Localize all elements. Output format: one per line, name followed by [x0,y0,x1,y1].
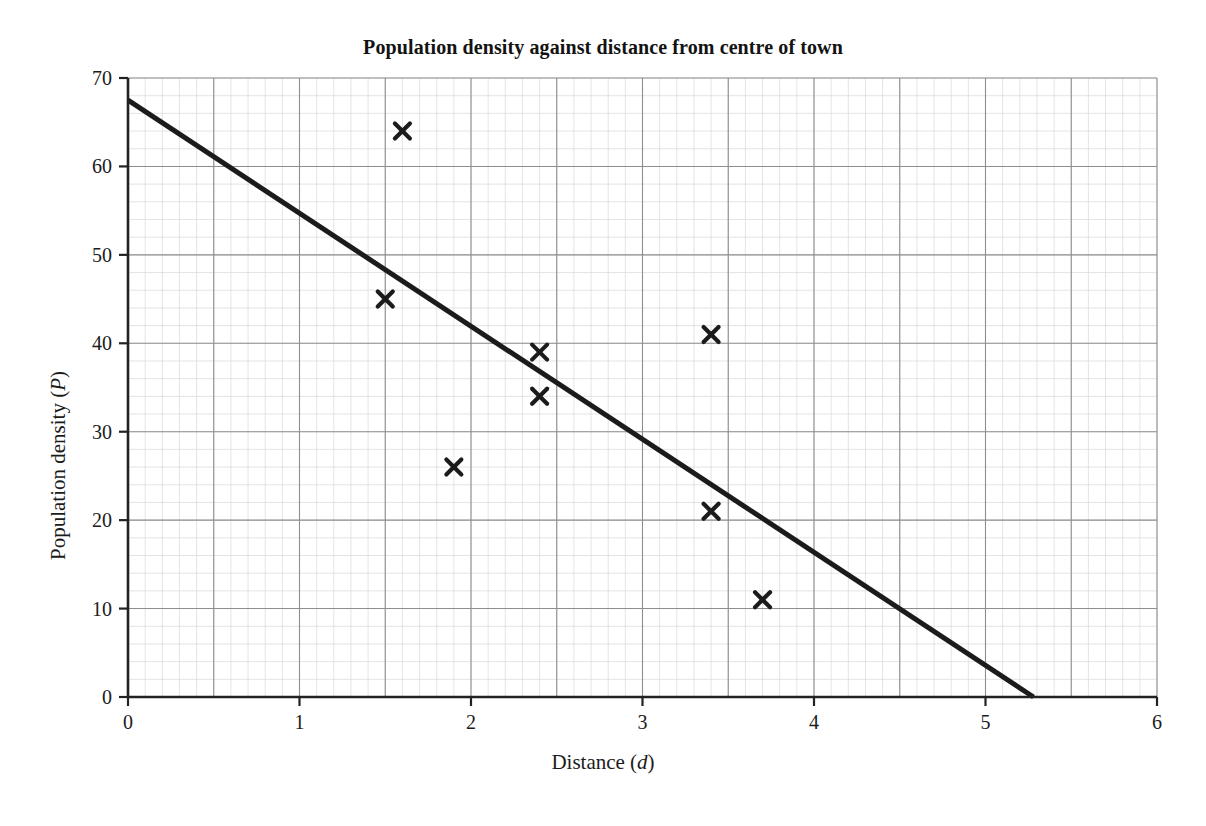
data-point [378,292,393,307]
data-points-group [378,124,770,608]
x-axis-title-prefix: Distance ( [551,750,637,774]
trend-line-segment [128,100,1034,697]
x-axis-tick-label: 2 [466,711,476,734]
y-axis-title-suffix: ) [46,371,70,378]
x-axis-tick-label: 5 [981,711,991,734]
data-point [755,592,770,607]
data-point [704,504,719,519]
y-axis-title-prefix: Population density ( [46,391,70,560]
x-axis-tick-label: 4 [809,711,819,734]
trend-line [128,100,1034,697]
x-axis-tick-label: 3 [638,711,648,734]
x-axis-variable: d [637,750,648,774]
data-layer [128,78,1157,697]
x-axis-title: Distance (d) [0,750,1206,775]
y-axis-tick-label: 40 [54,332,112,355]
y-axis-tick-label: 70 [54,67,112,90]
data-point [532,345,547,360]
x-axis-tick-label: 6 [1152,711,1162,734]
y-axis-tick-label: 0 [54,686,112,709]
chart-page: Population density against distance from… [0,0,1206,826]
y-axis-tick-label: 20 [54,509,112,532]
plot-area [128,78,1157,697]
data-point [532,389,547,404]
data-point [704,327,719,342]
data-point [446,460,461,475]
x-axis-tick-label: 0 [123,711,133,734]
y-axis-tick-label: 10 [54,597,112,620]
x-axis-title-suffix: ) [648,750,655,774]
y-axis-title: Population density (P) [46,371,71,560]
y-axis-tick-label: 30 [54,420,112,443]
data-point [395,124,410,139]
x-axis-tick-label: 1 [295,711,305,734]
page-title: Population density against distance from… [0,36,1206,59]
y-axis-variable: P [46,378,70,391]
y-axis-tick-label: 50 [54,243,112,266]
y-axis-tick-label: 60 [54,155,112,178]
